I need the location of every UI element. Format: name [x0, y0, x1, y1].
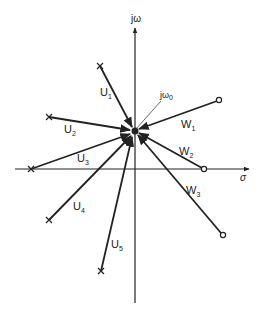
vector-u5 [101, 137, 132, 271]
jw-axis-label: jω [130, 13, 141, 24]
vector-w2 [139, 133, 202, 168]
u3-label: U3 [77, 152, 89, 166]
u2-label: U2 [64, 123, 76, 137]
sigma-axis-label: σ [240, 172, 247, 183]
u4-label: U4 [73, 200, 85, 214]
pole-marker-w3 [220, 232, 225, 237]
evaluation-point [132, 128, 139, 135]
u1-label: U1 [100, 86, 112, 100]
w3-label: W3 [186, 184, 200, 198]
zero-marker-u4 [46, 217, 52, 223]
pole-marker-w2 [201, 166, 206, 171]
vector-u2 [49, 117, 130, 130]
pole-marker-w1 [216, 97, 221, 102]
w2-label: W2 [179, 145, 193, 159]
zero-marker-u1 [97, 63, 103, 69]
diagram-svg: jω σ jω0 U1 U2 U3 U4 U5 W1 W2 W3 [0, 0, 261, 311]
pole-vectors [138, 101, 221, 233]
u5-label: U5 [111, 238, 123, 252]
vector-w1 [139, 101, 217, 129]
pole-markers [201, 97, 225, 237]
jw0-label: jω0 [159, 90, 173, 101]
w1-label: W1 [181, 118, 195, 132]
s-plane-diagram: jω σ jω0 U1 U2 U3 U4 U5 W1 W2 W3 [0, 0, 261, 311]
